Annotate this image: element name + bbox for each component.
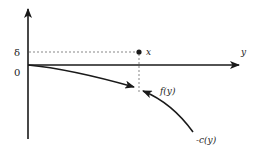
point-x-label: x: [146, 47, 151, 57]
curve-c: [143, 91, 193, 132]
diagram-canvas: δ 0 x y f(y) -c(y): [0, 0, 258, 163]
curve-f-label: f(y): [159, 86, 176, 96]
curve-f: [28, 65, 134, 87]
delta-tick-label: δ: [14, 47, 20, 58]
curve-c-label: -c(y): [196, 135, 217, 145]
horizontal-axis-label: y: [240, 47, 247, 57]
point-x-marker: [136, 49, 141, 54]
zero-tick-label: 0: [14, 67, 20, 78]
